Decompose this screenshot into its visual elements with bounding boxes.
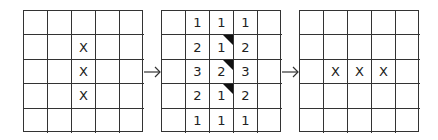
grid-cell: 1 <box>186 11 210 35</box>
arrow-right-icon <box>144 66 162 78</box>
grid-cell <box>48 35 72 59</box>
grid-cell <box>24 11 48 35</box>
grid-cell <box>258 109 282 133</box>
grid-cell <box>48 11 72 35</box>
grid-cell: 1 <box>186 109 210 133</box>
grid-cell <box>300 60 324 84</box>
cell-value: 2 <box>241 88 249 103</box>
grid-cell <box>372 35 396 59</box>
grid-cell <box>348 35 372 59</box>
cell-value: X <box>331 64 340 79</box>
grid-after: XXX <box>299 10 419 132</box>
grid-cell: 1 <box>210 35 234 59</box>
grid-cell: 1 <box>234 109 258 133</box>
grid-cell <box>258 11 282 35</box>
grid-cell <box>258 84 282 108</box>
grid-before: XXX <box>23 10 143 132</box>
grid-cell <box>372 84 396 108</box>
grid-cell <box>324 11 348 35</box>
grid-cell <box>162 60 186 84</box>
cell-value: 1 <box>217 15 225 30</box>
cell-value: X <box>79 88 88 103</box>
cell-value: X <box>355 64 364 79</box>
grid-cell <box>120 11 144 35</box>
grid-cell <box>258 60 282 84</box>
grid-cell <box>396 84 420 108</box>
grid-cell <box>96 35 120 59</box>
grid-cell <box>24 35 48 59</box>
grid-cell <box>324 109 348 133</box>
grid-neighbor-counts: 111212323212111 <box>161 10 281 132</box>
grid-cell <box>24 109 48 133</box>
grid-cell <box>24 84 48 108</box>
grid-cell: X <box>348 60 372 84</box>
grid-cell <box>162 35 186 59</box>
cell-value: 1 <box>217 113 225 128</box>
grid-cell <box>24 60 48 84</box>
cell-value: 1 <box>241 15 249 30</box>
grid-cell: 2 <box>186 35 210 59</box>
corner-marker-icon <box>223 35 233 45</box>
grid-cell: 1 <box>210 11 234 35</box>
grid-cell <box>48 109 72 133</box>
grid-cell <box>300 84 324 108</box>
arrow-right-icon <box>282 66 300 78</box>
grid-cell: 3 <box>186 60 210 84</box>
grid-cell <box>300 11 324 35</box>
grid-cell: X <box>72 60 96 84</box>
grid-cell <box>72 11 96 35</box>
grid-cell <box>258 35 282 59</box>
cell-value: X <box>379 64 388 79</box>
corner-marker-icon <box>223 84 233 94</box>
grid-cell <box>96 84 120 108</box>
grid-cell <box>396 109 420 133</box>
grid-cell <box>96 109 120 133</box>
grid-cell: 2 <box>186 84 210 108</box>
cell-value: 3 <box>241 64 249 79</box>
grid-cell <box>396 11 420 35</box>
grid-cell <box>48 60 72 84</box>
cell-value: X <box>79 40 88 55</box>
grid-cell <box>162 11 186 35</box>
grid-cell: 2 <box>210 60 234 84</box>
grid-cell: 1 <box>234 11 258 35</box>
grid-cell <box>120 109 144 133</box>
grid-cell <box>348 84 372 108</box>
cell-value: 2 <box>193 40 201 55</box>
grid-cell <box>348 109 372 133</box>
grid-cell <box>162 109 186 133</box>
cell-value: X <box>79 64 88 79</box>
grid-cell <box>372 11 396 35</box>
grid-cell: 1 <box>210 84 234 108</box>
grid-cell: 2 <box>234 84 258 108</box>
grid-cell <box>72 109 96 133</box>
grid-cell <box>48 84 72 108</box>
grid-cell: X <box>72 84 96 108</box>
grid-cell <box>96 60 120 84</box>
grid-cell: 3 <box>234 60 258 84</box>
grid-cell <box>396 35 420 59</box>
grid-cell <box>324 35 348 59</box>
cell-value: 2 <box>241 40 249 55</box>
grid-cell <box>120 60 144 84</box>
grid-cell <box>96 11 120 35</box>
cell-value: 2 <box>193 88 201 103</box>
grid-cell: 1 <box>210 109 234 133</box>
grid-cell: X <box>72 35 96 59</box>
grid-cell: X <box>372 60 396 84</box>
grid-cell <box>120 35 144 59</box>
grid-cell: X <box>324 60 348 84</box>
corner-marker-icon <box>223 60 233 70</box>
grid-cell <box>372 109 396 133</box>
grid-cell <box>348 11 372 35</box>
grid-cell <box>300 109 324 133</box>
grid-cell <box>324 84 348 108</box>
grid-cell: 2 <box>234 35 258 59</box>
grid-cell <box>396 60 420 84</box>
grid-cell <box>300 35 324 59</box>
cell-value: 1 <box>241 113 249 128</box>
cell-value: 3 <box>193 64 201 79</box>
grid-cell <box>120 84 144 108</box>
cell-value: 1 <box>193 15 201 30</box>
grid-cell <box>162 84 186 108</box>
